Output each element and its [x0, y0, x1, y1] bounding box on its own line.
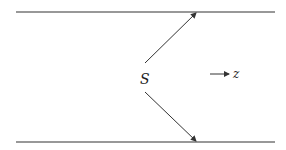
z-axis-label: z [232, 67, 240, 81]
downward-ray-arrow [145, 92, 196, 141]
source-label: S [140, 71, 150, 87]
waveguide-diagram: S z [0, 0, 286, 150]
upward-ray-arrow [145, 13, 196, 63]
